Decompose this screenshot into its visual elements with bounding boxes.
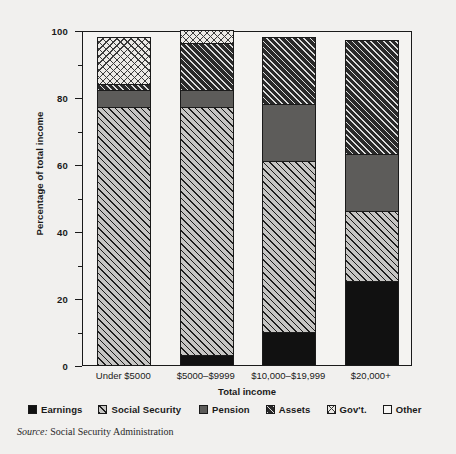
- legend-swatch-icon: [327, 405, 336, 414]
- bar-segment-assets: [98, 84, 150, 91]
- stacked-bar: [262, 37, 316, 365]
- y-tick-label: 20: [57, 294, 68, 305]
- legend-item-govt[interactable]: Gov't.: [327, 404, 367, 415]
- bar-segment-earnings: [263, 332, 315, 366]
- legend-item-socsec[interactable]: Social Security: [98, 404, 181, 415]
- legend-swatch-icon: [98, 405, 107, 414]
- plot-area: [82, 31, 412, 366]
- legend-label: Gov't.: [340, 404, 367, 415]
- bar-segment-earnings: [181, 355, 233, 365]
- y-tick-label: 100: [52, 26, 68, 37]
- legend-item-other[interactable]: Other: [383, 404, 422, 415]
- bar-segment-earnings: [346, 281, 398, 365]
- y-tick-major: [75, 98, 82, 99]
- bar-segment-socsec: [263, 161, 315, 332]
- legend-label: Social Security: [111, 404, 181, 415]
- bar-segment-assets: [181, 43, 233, 90]
- bar-segment-socsec: [346, 211, 398, 281]
- y-tick-label: 0: [63, 361, 68, 372]
- bar-segment-govt: [98, 37, 150, 84]
- legend-label: Assets: [279, 404, 311, 415]
- y-tick-major: [75, 165, 82, 166]
- legend-item-earnings[interactable]: Earnings: [28, 404, 82, 415]
- bar-segment-pension: [181, 90, 233, 107]
- y-tick-major: [75, 232, 82, 233]
- source-prefix: Source:: [17, 426, 48, 437]
- stacked-bar: [345, 40, 399, 365]
- bar-segment-socsec: [98, 107, 150, 365]
- stacked-bar: [97, 37, 151, 365]
- x-tick-label: $5000–$9999: [177, 370, 235, 381]
- legend-label: Other: [396, 404, 422, 415]
- source-note: Source: Social Security Administration: [17, 426, 174, 437]
- x-axis: Under $5000$5000–$9999$10,000–$19,999$20…: [82, 366, 412, 388]
- legend-label: Pension: [212, 404, 250, 415]
- bar-segment-pension: [98, 90, 150, 107]
- legend-item-pension[interactable]: Pension: [199, 404, 250, 415]
- bar-segment-pension: [346, 154, 398, 211]
- chart-legend: EarningsSocial SecurityPensionAssetsGov'…: [28, 401, 428, 417]
- legend-label: Earnings: [41, 404, 82, 415]
- x-axis-title: Total income: [82, 386, 412, 397]
- legend-swatch-icon: [383, 405, 392, 414]
- y-tick-label: 40: [57, 227, 68, 238]
- y-axis-title: Percentage of total income: [34, 39, 45, 309]
- source-text: Social Security Administration: [50, 426, 173, 437]
- legend-swatch-icon: [28, 405, 37, 414]
- x-tick-label: $20,000+: [351, 370, 391, 381]
- stacked-bar: [180, 30, 234, 365]
- legend-swatch-icon: [199, 405, 208, 414]
- y-tick-major: [75, 299, 82, 300]
- bar-segment-socsec: [181, 107, 233, 355]
- chart-figure: Percentage of total income 020406080100 …: [0, 0, 456, 454]
- bar-segment-assets: [346, 40, 398, 154]
- legend-swatch-icon: [266, 405, 275, 414]
- legend-item-assets[interactable]: Assets: [266, 404, 311, 415]
- x-tick-label: Under $5000: [96, 370, 151, 381]
- y-tick-major: [75, 366, 82, 367]
- bar-segment-pension: [263, 104, 315, 161]
- y-tick-label: 60: [57, 160, 68, 171]
- bar-segment-govt: [181, 30, 233, 43]
- bar-segment-assets: [263, 37, 315, 104]
- y-tick-label: 80: [57, 93, 68, 104]
- x-tick-label: $10,000–$19,999: [251, 370, 325, 381]
- y-tick-major: [75, 31, 82, 32]
- y-axis: Percentage of total income 020406080100: [0, 0, 82, 400]
